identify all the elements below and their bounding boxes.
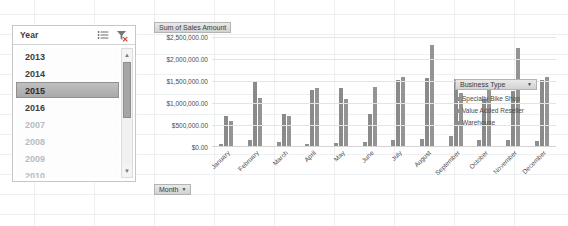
bar[interactable]	[545, 77, 549, 147]
grid-line-horizontal	[0, 214, 568, 215]
x-axis-tick: March	[269, 148, 298, 186]
y-axis-labels: $2,500,000.00$2,000,000.00$1,500,000.00$…	[152, 37, 210, 147]
slicer-item-list[interactable]: 20132014201520162007200820092010	[16, 48, 119, 178]
bar[interactable]	[310, 90, 314, 147]
bar-group-March	[269, 37, 298, 147]
x-axis-tick-label: August	[413, 149, 432, 168]
bar[interactable]	[401, 77, 405, 147]
x-axis-tick-label: March	[271, 149, 289, 167]
slicer-scrollbar[interactable]: ▲ ▼	[121, 48, 133, 178]
x-axis-tick-label: February	[237, 149, 260, 172]
bar-group-May	[327, 37, 356, 147]
x-axis-tick: July	[384, 148, 413, 186]
legend-label: Warehouse	[462, 119, 495, 126]
scroll-down-arrow-icon[interactable]: ▼	[122, 165, 132, 177]
y-axis-tick-label: $500,000.00	[172, 122, 208, 129]
slicer-header: Year	[13, 26, 135, 45]
y-axis-tick-label: $0.00	[192, 144, 208, 151]
value-field-button[interactable]: Sum of Sales Amount	[154, 22, 231, 33]
chart-legend[interactable]: Business Type ▼ Specialty Bike ShopValue…	[455, 79, 537, 126]
y-axis-tick-label: $2,000,000.00	[166, 56, 208, 63]
x-axis-tick-label: April	[303, 149, 317, 163]
slicer-item-2008[interactable]: 2008	[16, 133, 119, 149]
x-axis-tick-label: June	[360, 149, 375, 164]
slicer-item-2007[interactable]: 2007	[16, 116, 119, 132]
slicer-title: Year	[20, 30, 38, 40]
x-axis-tick: September	[441, 148, 470, 186]
slicer-item-2015[interactable]: 2015	[16, 82, 119, 98]
axis-field-label: Month	[159, 186, 178, 193]
bar[interactable]	[368, 114, 372, 147]
bar[interactable]	[425, 78, 429, 147]
bar[interactable]	[315, 88, 319, 147]
axis-field-button[interactable]: Month ▼	[154, 184, 191, 195]
x-axis-tick: May	[327, 148, 356, 186]
chevron-down-icon: ▼	[527, 82, 532, 87]
slicer-item-2010[interactable]: 2010	[16, 167, 119, 178]
x-axis-labels: JanuaryFebruaryMarchAprilMayJuneJulyAugu…	[212, 148, 556, 186]
scroll-up-arrow-icon[interactable]: ▲	[122, 49, 132, 61]
legend-field-label: Business Type	[460, 81, 505, 88]
bar[interactable]	[396, 80, 400, 147]
gridline	[212, 59, 556, 60]
chevron-down-icon: ▼	[181, 187, 186, 192]
bar[interactable]	[258, 98, 262, 147]
axis-baseline	[212, 146, 556, 147]
bar[interactable]	[287, 116, 291, 147]
legend-item-specialty-bike-shop: Specialty Bike Shop	[455, 95, 537, 102]
bar[interactable]	[282, 114, 286, 147]
legend-label: Specialty Bike Shop	[462, 95, 520, 102]
y-axis-tick-label: $2,500,000.00	[166, 34, 208, 41]
y-axis-tick-label: $1,500,000.00	[166, 78, 208, 85]
bar-group-June	[355, 37, 384, 147]
scrollbar-thumb[interactable]	[123, 62, 131, 118]
x-axis-tick: December	[527, 148, 556, 186]
legend-items: Specialty Bike ShopValue Added ResellerW…	[455, 95, 537, 126]
slicer-item-2016[interactable]: 2016	[16, 99, 119, 115]
x-axis-tick-label: October	[468, 149, 489, 170]
clear-filter-icon[interactable]	[115, 29, 128, 42]
bar[interactable]	[339, 88, 343, 147]
x-axis-tick-label: July	[390, 149, 403, 162]
slicer-body: 20132014201520162007200820092010 ▲ ▼	[13, 45, 135, 181]
grid-line-horizontal	[0, 14, 568, 15]
bar-group-July	[384, 37, 413, 147]
legend-swatch	[455, 97, 459, 101]
bar-group-February	[241, 37, 270, 147]
bar-group-August	[413, 37, 442, 147]
gridline	[212, 37, 556, 38]
legend-swatch	[455, 121, 459, 125]
x-axis-tick-label: January	[210, 149, 231, 170]
slicer-item-2014[interactable]: 2014	[16, 65, 119, 81]
legend-swatch	[455, 109, 459, 113]
x-axis-tick: April	[298, 148, 327, 186]
multi-select-icon[interactable]	[97, 29, 110, 42]
x-axis-tick-label: May	[332, 149, 346, 163]
bar[interactable]	[344, 99, 348, 147]
legend-item-warehouse: Warehouse	[455, 119, 537, 126]
x-axis-tick: February	[241, 148, 270, 186]
value-field-label: Sum of Sales Amount	[159, 24, 226, 31]
x-axis-tick: June	[355, 148, 384, 186]
bar[interactable]	[373, 87, 377, 147]
legend-label: Value Added Reseller	[462, 107, 524, 114]
bar[interactable]	[430, 45, 434, 147]
y-axis-tick-label: $1,000,000.00	[166, 100, 208, 107]
year-slicer[interactable]: Year 20132014201520162007200820092010 ▲	[12, 25, 136, 182]
slicer-item-2013[interactable]: 2013	[16, 48, 119, 64]
slicer-item-2009[interactable]: 2009	[16, 150, 119, 166]
legend-item-value-added-reseller: Value Added Reseller	[455, 107, 537, 114]
bar[interactable]	[253, 82, 257, 147]
bar-group-April	[298, 37, 327, 147]
bar[interactable]	[540, 80, 544, 147]
bar[interactable]	[224, 116, 228, 147]
bar-group-January	[212, 37, 241, 147]
legend-field-button[interactable]: Business Type ▼	[455, 79, 537, 90]
